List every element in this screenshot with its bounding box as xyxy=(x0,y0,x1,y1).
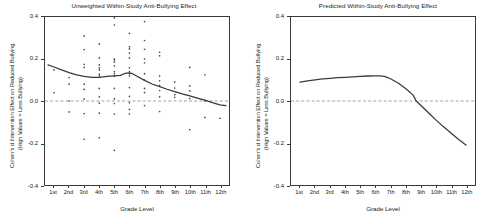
y-tick-mark xyxy=(41,186,44,187)
scatter-series xyxy=(53,17,221,151)
scatter-point xyxy=(98,67,100,69)
scatter-point xyxy=(129,96,131,98)
scatter-point xyxy=(174,94,176,96)
x-tick-mark xyxy=(391,186,392,188)
scatter-point xyxy=(129,109,131,111)
scatter-point xyxy=(83,67,85,69)
y-axis-label-line2: (High Values = Less Bullying) xyxy=(263,77,269,150)
y-tick-label: -0.2 xyxy=(16,140,38,146)
scatter-point xyxy=(174,96,176,98)
x-tick-mark xyxy=(206,186,207,188)
x-tick-mark xyxy=(421,186,422,188)
scatter-point xyxy=(83,49,85,51)
x-axis-label: Grade Level xyxy=(44,205,230,212)
scatter-point xyxy=(129,67,131,69)
scatter-point xyxy=(114,65,116,67)
trend-line xyxy=(300,76,466,145)
scatter-point xyxy=(159,90,161,92)
x-tick-label: 12th xyxy=(212,189,230,195)
x-tick-mark xyxy=(375,186,376,188)
x-tick-mark xyxy=(360,186,361,188)
scatter-point xyxy=(144,88,146,90)
scatter-point xyxy=(114,88,116,90)
y-tick-label: 0.2 xyxy=(16,55,38,61)
scatter-point xyxy=(98,69,100,71)
scatter-point xyxy=(114,17,116,19)
scatter-point xyxy=(144,49,146,51)
x-axis-label: Grade Level xyxy=(290,205,476,212)
plot-area xyxy=(291,17,475,185)
y-tick-label: 0.4 xyxy=(16,13,38,19)
scatter-point xyxy=(98,102,100,104)
x-tick-mark xyxy=(175,186,176,188)
x-tick-mark xyxy=(299,186,300,188)
scatter-point xyxy=(159,51,161,53)
scatter-point xyxy=(83,35,85,37)
x-tick-label: 12th xyxy=(458,189,476,195)
scatter-point xyxy=(98,96,100,98)
y-tick-label: 0.4 xyxy=(262,13,284,19)
scatter-point xyxy=(159,80,161,82)
y-axis-label-line1: Cohen's d Intervention Effect on Reduced… xyxy=(255,44,261,168)
scatter-point xyxy=(114,98,116,100)
x-tick-mark xyxy=(160,186,161,188)
x-tick-mark xyxy=(129,186,130,188)
x-tick-mark xyxy=(436,186,437,188)
scatter-point xyxy=(189,90,191,92)
scatter-point xyxy=(83,83,85,85)
scatter-point xyxy=(189,98,191,100)
scatter-point xyxy=(53,92,55,94)
x-tick-mark xyxy=(84,186,85,188)
x-tick-mark xyxy=(99,186,100,188)
scatter-point xyxy=(189,129,191,131)
scatter-point xyxy=(159,96,161,98)
scatter-point xyxy=(114,73,116,75)
scatter-point xyxy=(159,75,161,77)
y-tick-label: 0.0 xyxy=(262,98,284,104)
scatter-point xyxy=(83,89,85,91)
y-tick-label: 0.2 xyxy=(262,55,284,61)
scatter-point xyxy=(114,61,116,63)
scatter-point xyxy=(114,103,116,105)
scatter-point xyxy=(83,63,85,65)
scatter-point xyxy=(129,113,131,115)
scatter-point xyxy=(98,112,100,114)
x-tick-mark xyxy=(406,186,407,188)
y-tick-label: -0.4 xyxy=(262,183,284,189)
plot-frame xyxy=(290,16,476,186)
x-tick-mark xyxy=(345,186,346,188)
scatter-point xyxy=(129,57,131,59)
scatter-point xyxy=(129,46,131,48)
scatter-point xyxy=(174,87,176,89)
scatter-point xyxy=(189,85,191,87)
x-tick-mark xyxy=(190,186,191,188)
scatter-point xyxy=(53,69,55,71)
scatter-point xyxy=(204,117,206,119)
y-axis-label-line1: Cohen's d Intervention Effect on Reduced… xyxy=(9,44,15,168)
x-tick-mark xyxy=(452,186,453,188)
scatter-point xyxy=(174,81,176,83)
scatter-point xyxy=(129,71,131,73)
scatter-point xyxy=(129,48,131,50)
scatter-point xyxy=(98,137,100,139)
scatter-point xyxy=(144,62,146,64)
scatter-point xyxy=(83,98,85,100)
x-tick-mark xyxy=(221,186,222,188)
scatter-point xyxy=(114,150,116,152)
scatter-point xyxy=(98,57,100,59)
panel-title: Unweighted Within-Study Anti-Bullying Ef… xyxy=(0,2,246,9)
scatter-point xyxy=(219,117,221,119)
scatter-point xyxy=(129,75,131,77)
scatter-point xyxy=(159,111,161,113)
scatter-point xyxy=(114,24,116,26)
scatter-point xyxy=(83,113,85,115)
scatter-point xyxy=(204,74,206,76)
scatter-point xyxy=(129,87,131,89)
panel-unweighted: Unweighted Within-Study Anti-Bullying Ef… xyxy=(0,0,246,224)
scatter-point xyxy=(98,73,100,75)
scatter-point xyxy=(114,71,116,73)
plot-area xyxy=(45,17,229,185)
scatter-point xyxy=(98,88,100,90)
scatter-point xyxy=(68,100,70,102)
y-tick-label: -0.4 xyxy=(16,183,38,189)
